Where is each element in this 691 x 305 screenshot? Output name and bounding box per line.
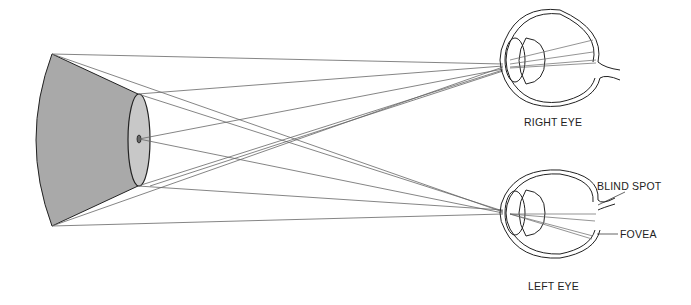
right-eye-label: RIGHT EYE [524,116,582,128]
left-eye-label: LEFT EYE [528,280,579,292]
fovea-label: FOVEA [620,228,657,240]
right-eye [500,9,620,106]
binocular-vision-diagram [0,0,691,305]
blind-spot-label: BLIND SPOT [597,180,661,192]
cone-object [36,54,150,226]
blind-spot-pointer [598,192,625,205]
